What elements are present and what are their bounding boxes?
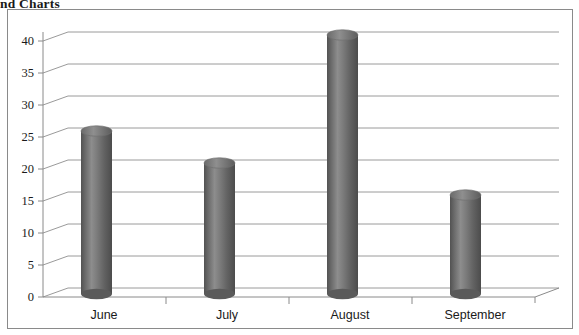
- y-tick-label: 10: [22, 226, 35, 240]
- y-axis-tick-labels: 0 5 10 15 20 25 30 35 40: [22, 34, 35, 304]
- bar-september[interactable]: [450, 190, 481, 299]
- x-axis-tick-labels: June July August September: [90, 308, 505, 322]
- x-tick-label: August: [331, 308, 370, 322]
- bar-july[interactable]: [204, 158, 235, 299]
- chart-frame: 0 5 10 15 20 25 30 35 40: [7, 9, 573, 329]
- bar-june[interactable]: [81, 126, 112, 299]
- y-tick-label: 40: [22, 34, 35, 48]
- x-tick-label: July: [216, 308, 239, 322]
- gridlines: [43, 32, 559, 297]
- y-tick-label: 15: [22, 194, 35, 208]
- x-tick-label: June: [90, 308, 117, 322]
- y-tick-label: 35: [22, 66, 35, 80]
- x-tick-label: September: [444, 308, 505, 322]
- bar-chart: 0 5 10 15 20 25 30 35 40: [8, 10, 572, 328]
- y-tick-label: 20: [22, 162, 35, 176]
- screenshot-page: nd Charts: [0, 0, 579, 335]
- y-tick-label: 0: [28, 290, 34, 304]
- bar-august[interactable]: [327, 30, 358, 299]
- y-tick-label: 25: [22, 130, 35, 144]
- y-tick-label: 30: [22, 98, 35, 112]
- bar-series: [81, 30, 481, 299]
- y-tick-label: 5: [28, 258, 34, 272]
